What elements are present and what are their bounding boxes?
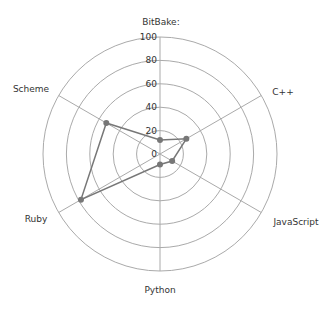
- data-point: [169, 158, 175, 164]
- tick-label: 0: [151, 149, 157, 159]
- category-label: Scheme: [13, 84, 50, 94]
- data-point: [157, 162, 163, 168]
- category-label: BitBake:: [142, 17, 179, 27]
- data-point: [183, 136, 189, 142]
- tick-label: 60: [146, 79, 158, 89]
- axis-spoke: [160, 96, 261, 155]
- tick-label: 20: [146, 126, 158, 136]
- radar-chart: 020406080100 BitBake:C++JavaScriptPython…: [0, 0, 332, 310]
- data-point: [157, 137, 163, 143]
- axis-spoke: [59, 154, 160, 213]
- category-label: JavaScript: [272, 217, 319, 227]
- category-labels: BitBake:C++JavaScriptPythonRubyScheme: [13, 17, 319, 295]
- data-point: [78, 197, 84, 203]
- axis-spoke: [160, 154, 261, 213]
- category-label: Ruby: [25, 214, 48, 224]
- category-label: Python: [144, 285, 175, 295]
- tick-label: 40: [146, 102, 158, 112]
- radar-grid: [43, 37, 277, 271]
- data-series: [78, 120, 189, 203]
- tick-label: 80: [146, 55, 158, 65]
- radial-tick-labels: 020406080100: [140, 32, 157, 159]
- category-label: C++: [272, 87, 293, 97]
- tick-label: 100: [140, 32, 157, 42]
- data-point: [103, 120, 109, 126]
